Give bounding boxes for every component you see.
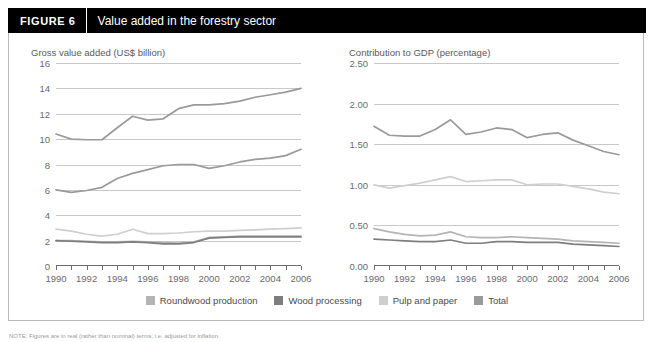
series-line <box>56 149 301 192</box>
x-axis-tick-label: 1992 <box>394 273 415 284</box>
x-axis-tick <box>179 266 180 270</box>
chart-right-axis-title: Contribution to GDP (percentage) <box>349 47 490 58</box>
y-axis-tick-label: 1.00 <box>350 179 369 190</box>
y-axis-tick-label: 6 <box>45 184 50 195</box>
x-axis-tick <box>117 266 118 270</box>
y-axis-tick-label: 0.00 <box>350 261 369 272</box>
x-axis-tick <box>451 266 452 270</box>
chart-legend: Roundwood productionWood processingPulp … <box>9 295 645 306</box>
legend-swatch <box>379 296 388 305</box>
x-axis-tick <box>405 266 406 270</box>
y-axis-tick-label: 14 <box>39 83 50 94</box>
y-axis-tick-label: 8 <box>45 159 50 170</box>
x-axis-tick-label: 1998 <box>168 273 189 284</box>
y-axis-tick-label: 16 <box>39 58 50 69</box>
x-axis-tick-label: 2002 <box>229 273 250 284</box>
x-axis-tick <box>588 266 589 270</box>
x-axis-tick <box>301 266 302 270</box>
series-layer <box>374 63 619 266</box>
y-axis-tick-label: 4 <box>45 210 50 221</box>
series-line <box>56 88 301 139</box>
series-line <box>56 228 301 236</box>
legend-swatch <box>146 296 155 305</box>
x-axis-tick <box>148 266 149 270</box>
legend-item[interactable]: Roundwood production <box>146 295 258 306</box>
x-axis-tick-label: 1996 <box>455 273 476 284</box>
x-axis-tick <box>466 266 467 270</box>
x-axis-tick-label: 1994 <box>425 273 446 284</box>
x-axis-tick-label: 2002 <box>547 273 568 284</box>
x-axis-tick <box>573 266 574 270</box>
y-axis-tick-label: 10 <box>39 134 50 145</box>
x-axis-tick <box>527 266 528 270</box>
chart-right-plot-area: 0.000.501.001.502.002.501990199219941996… <box>374 63 619 266</box>
x-axis-tick <box>255 266 256 270</box>
x-axis-tick-label: 1996 <box>137 273 158 284</box>
x-axis-tick <box>542 266 543 270</box>
y-axis-tick-label: 2.50 <box>350 58 369 69</box>
x-axis-tick-label: 1990 <box>45 273 66 284</box>
x-axis-tick <box>604 266 605 270</box>
y-axis-tick-label: 1.50 <box>350 139 369 150</box>
y-axis-tick-label: 2.00 <box>350 98 369 109</box>
x-axis-tick <box>558 266 559 270</box>
x-axis-tick <box>374 266 375 270</box>
x-axis-tick <box>286 266 287 270</box>
x-axis-tick-label: 2006 <box>608 273 629 284</box>
series-layer <box>56 63 301 266</box>
y-axis-tick-label: 2 <box>45 235 50 246</box>
legend-item[interactable]: Wood processing <box>274 295 361 306</box>
series-line <box>374 177 619 194</box>
chart-gross-value-added: Gross value added (US$ billion) 02468101… <box>9 33 327 321</box>
x-axis-tick <box>102 266 103 270</box>
x-axis-tick-label: 2004 <box>260 273 281 284</box>
figure-root: FIGURE 6 Value added in the forestry sec… <box>0 0 654 342</box>
x-axis-tick <box>619 266 620 270</box>
x-axis-tick <box>87 266 88 270</box>
x-axis-tick-label: 2004 <box>578 273 599 284</box>
x-axis-tick <box>420 266 421 270</box>
y-axis-tick-label: 0.50 <box>350 220 369 231</box>
legend-swatch <box>274 296 283 305</box>
figure-note-text: NOTE: Figures are in real (rather than n… <box>9 333 220 339</box>
x-axis-tick <box>497 266 498 270</box>
x-axis-tick <box>270 266 271 270</box>
x-axis-tick <box>512 266 513 270</box>
figure-header: FIGURE 6 Value added in the forestry sec… <box>8 8 646 33</box>
y-axis-tick-label: 0 <box>45 261 50 272</box>
x-axis-tick-label: 2000 <box>517 273 538 284</box>
legend-item[interactable]: Total <box>474 295 508 306</box>
y-axis-tick-label: 12 <box>39 108 50 119</box>
series-line <box>374 120 619 155</box>
legend-label: Roundwood production <box>160 295 258 306</box>
x-axis-tick <box>71 266 72 270</box>
figure-title: Value added in the forestry sector <box>87 14 277 28</box>
x-axis-tick <box>481 266 482 270</box>
x-axis-tick <box>56 266 57 270</box>
x-axis-tick-label: 1992 <box>76 273 97 284</box>
legend-item[interactable]: Pulp and paper <box>379 295 457 306</box>
x-axis-tick-label: 2000 <box>199 273 220 284</box>
x-axis-tick <box>133 266 134 270</box>
legend-swatch <box>474 296 483 305</box>
figure-number: FIGURE 6 <box>8 15 86 27</box>
chart-left-plot-area: 0246810121416199019921994199619982000200… <box>56 63 301 266</box>
x-axis-tick-label: 1990 <box>363 273 384 284</box>
legend-label: Total <box>488 295 508 306</box>
x-axis-tick <box>240 266 241 270</box>
x-axis-tick <box>389 266 390 270</box>
x-axis-tick-label: 1998 <box>486 273 507 284</box>
legend-label: Pulp and paper <box>393 295 457 306</box>
x-axis-tick <box>209 266 210 270</box>
figure-panel: Gross value added (US$ billion) 02468101… <box>8 33 644 321</box>
x-axis-tick <box>194 266 195 270</box>
series-line <box>374 239 619 246</box>
x-axis-tick <box>435 266 436 270</box>
x-axis-tick-label: 1994 <box>107 273 128 284</box>
legend-label: Wood processing <box>288 295 361 306</box>
x-axis-tick <box>224 266 225 270</box>
figure-note: NOTE: Figures are in real (rather than n… <box>9 333 649 339</box>
x-axis-tick-label: 2006 <box>290 273 311 284</box>
chart-contribution-to-gdp: Contribution to GDP (percentage) 0.000.5… <box>327 33 645 321</box>
x-axis-tick <box>163 266 164 270</box>
